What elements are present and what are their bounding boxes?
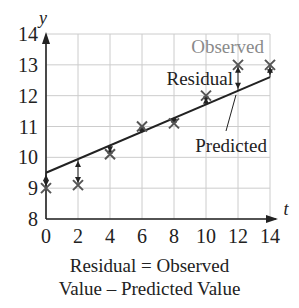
x-tick-label: 8 [169, 225, 179, 247]
y-tick-label: 13 [18, 54, 38, 76]
residual-label: Residual [167, 68, 234, 89]
y-tick-label: 8 [28, 208, 38, 230]
x-axis-arrow-icon [266, 215, 278, 223]
observed-label: Observed [191, 36, 264, 57]
x-tick-label: 2 [73, 225, 83, 247]
regression-line [46, 77, 270, 173]
x-tick-label: 12 [228, 225, 248, 247]
x-tick-label: 4 [105, 225, 115, 247]
residual-arrow-icon [43, 175, 49, 181]
y-tick-label: 14 [18, 23, 38, 45]
x-tick-label: 14 [260, 225, 280, 247]
y-tick-label: 9 [28, 177, 38, 199]
y-tick-label: 10 [18, 146, 38, 168]
predicted-label: Predicted [195, 135, 267, 156]
x-tick-label: 0 [41, 225, 51, 247]
x-axis-label: t [283, 199, 289, 219]
caption-line-2: Value – Predicted Value [0, 277, 299, 300]
caption-line-1: Residual = Observed [0, 254, 299, 277]
y-axis-label: y [37, 8, 47, 28]
x-tick-label: 6 [137, 225, 147, 247]
grid-lines [46, 34, 270, 219]
predicted-pointer-line [226, 95, 236, 131]
y-tick-label: 12 [18, 85, 38, 107]
residual-arrow-icon [75, 161, 81, 167]
x-tick-label: 10 [196, 225, 216, 247]
residual-chart: yt89101112131402468101214 ObservedResidu… [0, 0, 299, 260]
residual-arrow-icon [235, 83, 241, 89]
y-tick-label: 11 [19, 116, 38, 138]
